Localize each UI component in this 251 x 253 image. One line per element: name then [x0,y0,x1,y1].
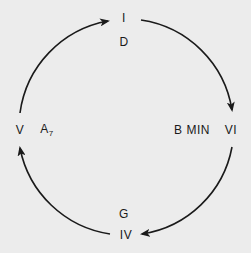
chord-progression-cycle-diagram: I D VI B MIN IV G V A7 [0,0,251,253]
chord-b-min-text: B MIN [174,123,210,137]
chord-g: G [119,208,129,220]
numeral-vi: VI [225,124,237,136]
arrow-i-to-vi [141,20,232,110]
numeral-i: I [122,12,126,24]
arrow-iv-to-v [20,148,110,234]
chord-a7: A7 [40,123,53,138]
arrow-v-to-i [20,21,108,113]
numeral-iv: IV [120,229,132,241]
numeral-v: V [16,124,25,136]
chord-a7-extension: 7 [49,129,54,138]
arrow-vi-to-iv [142,147,232,234]
chord-a7-root: A [40,122,49,136]
chord-b-min: B MIN [174,124,210,136]
chord-d: D [119,36,128,48]
